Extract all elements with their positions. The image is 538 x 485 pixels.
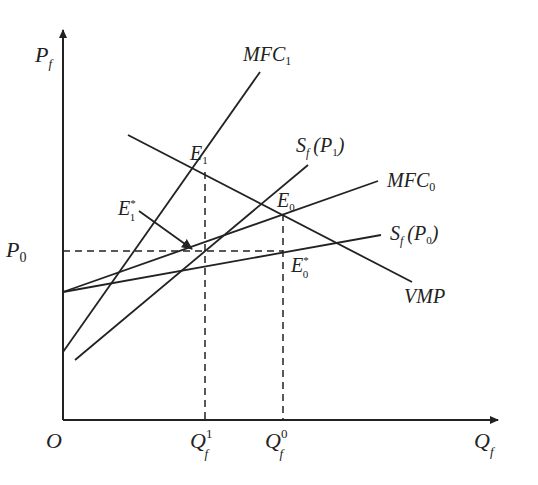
e1-label: E1: [189, 142, 208, 166]
sf-p1-label: Sf(P1): [296, 134, 345, 160]
e1-star-label: E*1: [117, 197, 136, 223]
mfc1-label: MFC1: [242, 43, 291, 68]
x-axis-label: Qf: [474, 428, 496, 459]
factor-market-diagram: Pf O Qf P0 Q1f Q0f MFC1 Sf(P1) MFC0 Sf(P…: [0, 0, 538, 485]
y-axis-label: Pf: [34, 42, 54, 71]
sf-p0-label: Sf(P0): [390, 222, 439, 248]
e0-star-label: E*0: [290, 254, 309, 280]
mfc1-curve: [63, 72, 260, 352]
mfc0-label: MFC0: [386, 169, 435, 194]
vmp-curve: [128, 135, 412, 282]
vmp-label: VMP: [404, 285, 445, 307]
e0-label: E0: [276, 189, 295, 213]
mfc0-curve: [63, 181, 378, 292]
sf-p1-curve: [75, 165, 308, 360]
p0-label: P0: [5, 237, 26, 265]
e1-star-arrow: [139, 211, 192, 249]
q0-label: Q0f: [265, 426, 287, 461]
q1-label: Q1f: [190, 426, 212, 461]
origin-label: O: [46, 428, 62, 453]
sf-p0-curve: [63, 235, 381, 292]
